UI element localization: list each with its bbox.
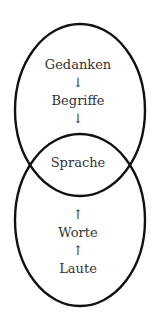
top-ellipse <box>15 24 145 196</box>
label-laute: Laute <box>0 262 156 276</box>
label-sprache: Sprache <box>0 156 156 170</box>
label-gedanken: Gedanken <box>0 58 156 72</box>
arrow-up-icon: ↑ <box>0 208 156 222</box>
label-begriffe: Begriffe <box>0 94 156 108</box>
arrow-down-icon: ↓ <box>0 112 156 126</box>
arrow-down-icon: ↓ <box>0 76 156 90</box>
arrow-up-icon: ↑ <box>0 244 156 258</box>
label-worte: Worte <box>0 226 156 240</box>
